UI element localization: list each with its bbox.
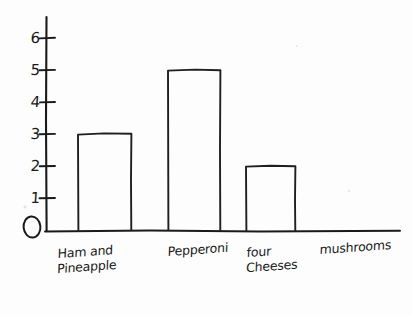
x-axis-line xyxy=(45,231,400,232)
y-tick-label-6: 6 xyxy=(17,31,40,46)
y-tick-label-5: 5 xyxy=(17,63,40,78)
bar-four-cheeses xyxy=(246,166,295,231)
y-tick-label-1: 1 xyxy=(17,191,40,206)
y-tick-6 xyxy=(40,38,56,39)
x-category-label-four-cheeses: four Cheeses xyxy=(246,242,298,275)
bar-ham-and-pineapple xyxy=(78,133,131,231)
x-category-label-ham-and-pineapple: Ham and Pineapple xyxy=(57,243,117,277)
bar-pepperoni xyxy=(168,70,220,231)
zero-label-glyph xyxy=(23,216,42,239)
y-tick-label-2: 2 xyxy=(17,159,40,174)
y-tick-label-4: 4 xyxy=(17,95,40,110)
hand-drawn-bar-chart: 6 5 4 3 2 1 Ham and Pineapple Pepperoni … xyxy=(0,0,413,316)
bars-group xyxy=(78,70,295,231)
y-tick-label-3: 3 xyxy=(17,127,40,142)
